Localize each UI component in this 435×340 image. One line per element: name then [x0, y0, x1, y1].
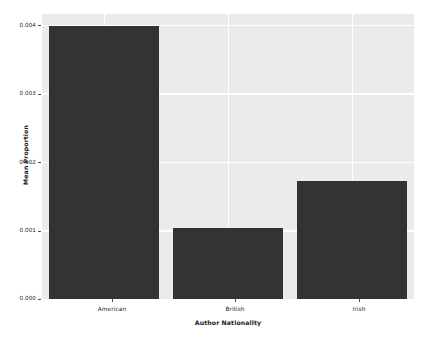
- bar-chart-figure: 0.004 0.003 0.002 0.001 0.000 American B…: [0, 0, 435, 340]
- bar-irish: [297, 181, 407, 299]
- ytick-mark-0.004: [38, 25, 41, 26]
- y-axis-title: Mean Proportion: [22, 105, 29, 205]
- ytick-label-0.003: 0.003: [10, 90, 36, 96]
- bar-british: [173, 228, 283, 299]
- xtick-label-american: American: [62, 306, 162, 312]
- ytick-mark-0.003: [38, 94, 41, 95]
- bar-american: [49, 26, 159, 299]
- ytick-label-0.004: 0.004: [10, 22, 36, 28]
- x-axis-title: Author Nationality: [42, 319, 414, 326]
- xtick-label-british: British: [185, 306, 285, 312]
- ytick-mark-0.002: [38, 162, 41, 163]
- ytick-label-0.001: 0.001: [10, 227, 36, 233]
- plot-area: [42, 14, 414, 299]
- ytick-label-0.000: 0.000: [10, 295, 36, 301]
- xtick-mark-british: [235, 299, 236, 302]
- ytick-mark-0.000: [38, 299, 41, 300]
- xtick-label-irish: Irish: [309, 306, 409, 312]
- xtick-mark-irish: [359, 299, 360, 302]
- xtick-mark-american: [112, 299, 113, 302]
- ytick-mark-0.001: [38, 231, 41, 232]
